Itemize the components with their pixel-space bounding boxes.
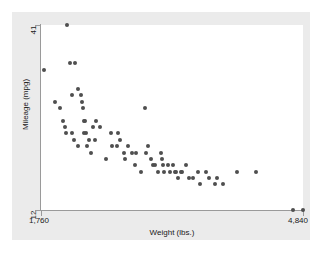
plot-area [41,25,303,210]
scatter-point [196,170,200,174]
scatter-point [159,151,163,155]
x-axis-line [40,210,304,211]
scatter-point [89,151,93,155]
y-axis-tick-label-top: 41 [30,26,39,35]
y-axis-title-label: Mileage (mpg) [22,79,31,130]
scatter-point [207,176,211,180]
scatter-point [139,170,143,174]
scatter-point [91,125,95,129]
scatter-point [291,208,295,212]
scatter-point [115,144,119,148]
scatter-point [301,208,305,212]
scatter-point [160,157,164,161]
scatter-point [174,170,178,174]
scatter-point [180,170,184,174]
scatter-point [76,144,80,148]
scatter-point [61,119,65,123]
scatter-point [63,125,67,129]
scatter-point [58,106,62,110]
scatter-point [80,100,84,104]
scatter-point [104,157,108,161]
scatter-point [204,170,208,174]
scatter-point [254,170,258,174]
scatter-point [82,119,86,123]
screenshot-root: Mileage (mpg) 41 12 1,760 4,840 Weight (… [0,0,323,253]
x-axis-tick-label-right: 4,840 [288,216,308,225]
scatter-point [126,144,130,148]
scatter-point [72,138,76,142]
scatter-point [143,106,147,110]
scatter-point [94,119,98,123]
x-axis-tick-label-left: 1,760 [29,216,49,225]
scatter-point [81,106,85,110]
scatter-point [134,151,138,155]
scatter-point [156,170,160,174]
y-axis-line [40,24,41,211]
scatter-point [122,151,126,155]
y-axis-title: Mileage (mpg) [20,12,32,197]
scatter-point [87,138,91,142]
scatter-point [70,93,74,97]
scatter-point [235,170,239,174]
scatter-point [149,157,153,161]
x-axis-title: Weight (lbs.) [41,228,303,237]
scatter-point [118,138,122,142]
scatter-point [98,125,102,129]
scatter-point [133,163,137,167]
